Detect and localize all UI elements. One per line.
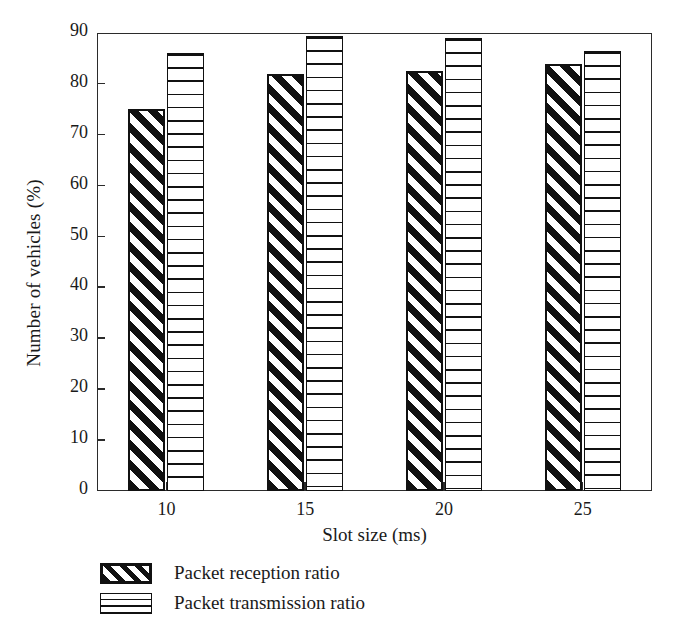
y-tick-mark: [97, 388, 105, 390]
y-tick-mark: [97, 337, 105, 339]
bar-packet-transmission-ratio: [167, 53, 204, 491]
bar-packet-reception-ratio: [267, 74, 304, 491]
bar-packet-reception-ratio: [545, 64, 582, 491]
y-tick-label: 50: [40, 224, 88, 245]
x-tick-label: 15: [275, 499, 335, 520]
y-tick-label: 30: [40, 325, 88, 346]
y-tick-mark: [97, 134, 105, 136]
x-tick-label: 10: [136, 499, 196, 520]
bar-chart-figure: Number of vehicles (%) 01020304050607080…: [0, 0, 683, 633]
legend-item-reception: Packet reception ratio: [100, 558, 365, 588]
x-tick-label: 25: [553, 499, 613, 520]
legend-label-transmission: Packet transmission ratio: [174, 592, 365, 614]
y-tick-mark: [97, 236, 105, 238]
legend-label-reception: Packet reception ratio: [174, 562, 340, 584]
y-tick-mark: [97, 185, 105, 187]
y-tick-label: 80: [40, 71, 88, 92]
chart-legend: Packet reception ratio Packet transmissi…: [100, 558, 365, 618]
y-tick-label: 0: [40, 478, 88, 499]
x-axis-title: Slot size (ms): [97, 524, 652, 546]
bar-packet-transmission-ratio: [445, 38, 482, 491]
y-tick-label: 60: [40, 173, 88, 194]
y-tick-label: 90: [40, 20, 88, 41]
y-tick-mark: [97, 286, 105, 288]
legend-swatch-reception-icon: [100, 563, 152, 584]
x-tick-label: 20: [414, 499, 474, 520]
bar-packet-reception-ratio: [406, 71, 443, 491]
y-tick-label: 70: [40, 122, 88, 143]
y-tick-mark: [97, 439, 105, 441]
legend-swatch-transmission-icon: [100, 593, 152, 614]
bar-packet-transmission-ratio: [306, 36, 343, 491]
y-tick-mark: [97, 83, 105, 85]
y-tick-label: 10: [40, 427, 88, 448]
bar-packet-reception-ratio: [128, 109, 165, 491]
bar-packet-transmission-ratio: [584, 51, 621, 491]
legend-item-transmission: Packet transmission ratio: [100, 588, 365, 618]
y-tick-label: 40: [40, 274, 88, 295]
y-tick-label: 20: [40, 376, 88, 397]
